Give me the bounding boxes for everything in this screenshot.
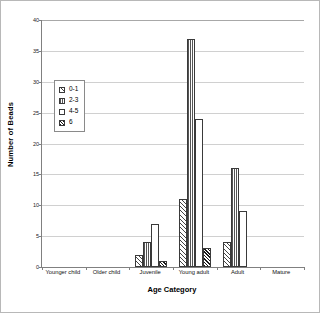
x-tick-label: Adult [216, 269, 260, 275]
bar [223, 242, 231, 267]
y-tick-label: 40 [33, 17, 39, 23]
x-tick-label: Older child [85, 269, 129, 275]
legend-swatch-icon [59, 98, 65, 104]
bar [143, 242, 151, 267]
legend-swatch-icon [59, 120, 65, 126]
x-tick-label: Younger child [41, 269, 85, 275]
bar-group [129, 20, 173, 267]
chart-legend: 0-12-34-56 [54, 80, 85, 132]
bar-group [42, 20, 86, 267]
x-axis-title: Age Category [41, 285, 303, 294]
legend-item: 4-5 [59, 106, 78, 117]
bar [151, 224, 159, 267]
y-tick-label: 25 [33, 110, 39, 116]
y-tick-label: 0 [36, 264, 39, 270]
bar-group [217, 20, 261, 267]
y-tick-label: 5 [36, 233, 39, 239]
x-axis-tick-labels: Younger childOlder childJuvenileYoung ad… [41, 269, 303, 275]
legend-swatch-icon [59, 109, 65, 115]
bar [159, 261, 167, 267]
bar [239, 211, 247, 267]
legend-item: 0-1 [59, 84, 78, 95]
y-axis-title-text: Number of Beads [7, 101, 16, 166]
bar [203, 248, 211, 267]
y-tick-label: 15 [33, 171, 39, 177]
legend-item-label: 2-3 [69, 97, 78, 104]
x-tick-label: Juvenile [128, 269, 172, 275]
legend-item: 2-3 [59, 95, 78, 106]
y-tick-label: 30 [33, 79, 39, 85]
legend-swatch-icon [59, 87, 65, 93]
y-tick-label: 35 [33, 48, 39, 54]
bar-group [86, 20, 130, 267]
bar-groups [42, 20, 304, 267]
plot-area: 0510152025303540 [41, 20, 304, 268]
chart-figure: Number of Beads 0510152025303540 Younger… [0, 0, 320, 313]
bar-group [260, 20, 304, 267]
legend-item-label: 0-1 [69, 86, 78, 93]
legend-item-label: 4-5 [69, 108, 78, 115]
bar [195, 119, 203, 267]
x-tick-label: Young adult [172, 269, 216, 275]
x-tick-mark [304, 267, 305, 270]
bar [179, 199, 187, 267]
y-tick-label: 10 [33, 202, 39, 208]
bar-group [173, 20, 217, 267]
x-tick-label: Mature [259, 269, 303, 275]
y-tick-label: 20 [33, 141, 39, 147]
legend-item: 6 [59, 117, 78, 128]
bar [187, 39, 195, 267]
y-axis-title: Number of Beads [3, 1, 19, 267]
bar [231, 168, 239, 267]
legend-item-label: 6 [69, 119, 73, 126]
bar [135, 255, 143, 267]
